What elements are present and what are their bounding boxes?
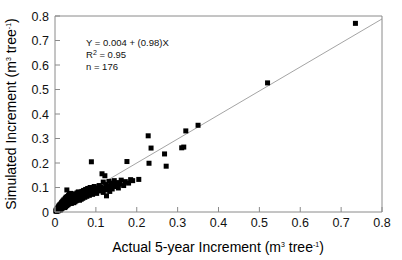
- r-squared-value: = 0.95: [97, 49, 126, 60]
- data-point: [136, 177, 141, 182]
- data-point: [130, 178, 135, 183]
- r-squared-line: R2 = 0.95: [86, 49, 126, 60]
- x-axis-title: Actual 5-year Increment (m3 tree-1): [112, 239, 324, 255]
- x-tick-label: 0.7: [332, 216, 349, 230]
- data-point: [164, 164, 169, 169]
- x-tick-label: 0.3: [169, 216, 186, 230]
- y-tick-label: 0.4: [32, 108, 49, 122]
- data-point: [147, 161, 152, 166]
- data-point: [124, 159, 129, 164]
- x-axis-title-end: ): [319, 239, 324, 255]
- x-tick-label: 0.4: [210, 216, 227, 230]
- data-point: [353, 21, 358, 26]
- scatter-plot-figure: 00.10.20.30.40.50.60.70.8 00.10.20.30.40…: [0, 0, 402, 260]
- data-point: [89, 159, 94, 164]
- data-point: [183, 128, 188, 133]
- y-tick-label: 0.6: [32, 59, 49, 73]
- y-axis-title: Simulated Increment (m3 tree-1): [3, 18, 19, 209]
- x-tick-label: 0.6: [292, 216, 309, 230]
- x-tick-label: 0.8: [373, 216, 390, 230]
- y-tick-label: 0.5: [32, 83, 49, 97]
- data-point: [146, 133, 151, 138]
- sample-size-label: n = 176: [86, 61, 118, 72]
- y-tick-label: 0.1: [32, 181, 49, 195]
- regression-equation: Y = 0.004 + (0.98)X: [86, 37, 169, 48]
- data-point: [181, 145, 186, 150]
- data-point: [162, 151, 167, 156]
- y-tick-label: 0.7: [32, 34, 49, 48]
- y-axis-ticks: 00.10.20.30.40.50.60.70.8: [32, 10, 60, 220]
- x-axis-title-mid: tree: [285, 239, 313, 255]
- data-point: [149, 146, 154, 151]
- data-point: [265, 80, 270, 85]
- data-point: [102, 173, 107, 178]
- y-axis-title-mid: tree: [3, 29, 19, 57]
- x-tick-label: 0.2: [128, 216, 145, 230]
- y-axis-title-main: Simulated Increment (m: [3, 61, 19, 210]
- y-tick-label: 0: [42, 206, 49, 220]
- data-point: [104, 193, 109, 198]
- y-tick-label: 0.8: [32, 10, 49, 24]
- y-tick-label: 0.2: [32, 157, 49, 171]
- chart-canvas: 00.10.20.30.40.50.60.70.8 00.10.20.30.40…: [0, 0, 402, 260]
- y-axis-title-end: ): [3, 18, 19, 23]
- data-point: [196, 123, 201, 128]
- y-tick-label: 0.3: [32, 132, 49, 146]
- x-tick-label: 0: [52, 216, 59, 230]
- x-tick-label: 0.1: [87, 216, 104, 230]
- x-axis-title-main: Actual 5-year Increment (m: [112, 239, 281, 255]
- x-tick-label: 0.5: [251, 216, 268, 230]
